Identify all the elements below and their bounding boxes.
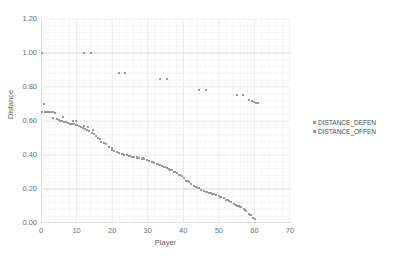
data-point [205,89,207,91]
data-point [92,129,94,131]
data-point [227,199,229,201]
data-point [211,193,213,195]
data-point [100,141,102,143]
data-point [75,120,77,122]
chart-root: 0.000.200.400.600.801.001.20 01020304050… [0,0,401,257]
data-point [87,126,89,128]
plot-area [41,19,290,223]
data-point [118,72,120,74]
x-tick-label: 40 [179,226,187,235]
y-axis-title: Distance [6,75,15,135]
data-point [142,157,144,159]
y-tick-label: 0.40 [0,150,37,159]
legend-item[interactable]: DISTANCE_OFFEN [313,127,376,136]
data-point [129,155,131,157]
data-point [136,156,138,158]
x-tick-label: 70 [286,226,294,235]
legend-label: DISTANCE_OFFEN [318,127,376,136]
data-point [206,191,208,193]
data-point [174,171,176,173]
data-point [187,180,189,182]
x-axis-title: Player [41,238,290,247]
legend-marker-icon [313,130,316,133]
data-point [198,89,200,91]
data-point [124,72,126,74]
data-point [159,164,161,166]
data-point [249,214,251,216]
legend-label: DISTANCE_DEFEN [318,118,376,127]
y-tick-label: 1.00 [0,48,37,57]
data-points-layer [41,19,290,223]
x-tick-label: 20 [108,226,116,235]
y-tick-label: 0.20 [0,184,37,193]
data-point [41,52,43,54]
data-point [254,218,256,220]
data-point [105,143,107,145]
data-point [179,174,181,176]
data-point [257,102,259,104]
data-point [122,153,124,155]
data-point [236,205,238,207]
data-point [164,166,166,168]
legend-item[interactable]: DISTANCE_DEFEN [313,118,376,127]
y-tick-label: 1.20 [0,14,37,23]
data-point [219,196,221,198]
data-point [242,94,244,96]
data-point [169,169,171,171]
data-point [62,116,64,118]
x-tick-label: 30 [144,226,152,235]
data-point [152,161,154,163]
data-point [111,149,113,151]
data-point [90,52,92,54]
data-point [197,187,199,189]
data-point [103,142,105,144]
x-tick-label: 0 [39,226,43,235]
data-point [52,117,54,119]
data-point [244,209,246,211]
legend-marker-icon [313,121,316,124]
data-point [236,94,238,96]
data-point [166,78,168,80]
data-point [159,78,161,80]
data-point [239,206,241,208]
x-tick-label: 60 [250,226,258,235]
chart-legend: DISTANCE_DEFENDISTANCE_OFFEN [313,118,376,136]
x-tick-label: 50 [215,226,223,235]
data-point [72,120,74,122]
data-point [83,52,85,54]
y-tick-label: 0.00 [0,218,37,227]
data-point [54,112,56,114]
data-point [83,125,85,127]
x-tick-label: 10 [72,226,80,235]
data-point [43,103,45,105]
